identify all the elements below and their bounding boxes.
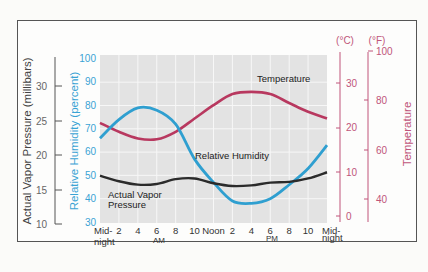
vapor-tick: 30 [36,81,48,92]
fahrenheit-tick: 40 [376,194,388,205]
x-sub-pm: PM [266,234,278,243]
humidity-tick: 50 [85,170,97,181]
fahrenheit-unit: (°F) [369,35,386,46]
humidity-tick: 60 [85,146,97,157]
vapor-tick: 15 [36,185,48,196]
humidity-tick: 100 [79,53,96,64]
celsius-tick: 10 [346,167,358,178]
celsius-axis: 30 20 10 0 (°C) [336,35,358,222]
humidity-tick: 40 [85,193,97,204]
annotation-vapor-line2: Pressure [108,199,146,210]
x-tick-label: Noon [202,225,225,236]
celsius-tick: 30 [346,78,358,89]
x-tick-label: 4 [135,225,140,236]
celsius-tick: 20 [346,122,358,133]
fahrenheit-axis: 100 80 60 40 (°F) Temperature [364,35,413,222]
vapor-axis: 30 25 20 15 10 Actual Vapor Pressure (mi… [21,57,62,230]
x-tick-label: 10 [303,225,314,236]
x-tick-label: 10 [189,225,200,236]
vapor-axis-title: Actual Vapor Pressure (millibars) [21,57,33,224]
celsius-tick: 0 [346,211,352,222]
annotation-humidity: Relative Humidity [195,150,269,161]
humidity-tick: 70 [85,123,97,134]
x-sub-night-left: night [94,236,115,247]
x-tick-label: 8 [287,225,292,236]
chart-svg: 30 25 20 15 10 Actual Vapor Pressure (mi… [0,0,428,272]
x-axis: Mid-246810Noon246810Mid- [94,225,340,236]
annotation-temperature: Temperature [257,73,310,84]
x-tick-label: 8 [173,225,178,236]
fahrenheit-tick: 80 [376,95,388,106]
humidity-tick: 90 [85,76,97,87]
x-tick-label: 2 [116,225,121,236]
vapor-tick: 10 [36,219,48,230]
x-tick-label: Mid- [94,225,112,236]
x-tick-label: 6 [154,225,159,236]
fahrenheit-tick: 100 [376,46,393,57]
fahrenheit-tick: 60 [376,145,388,156]
x-sub-am: AM [153,236,165,245]
vapor-tick: 20 [36,150,48,161]
humidity-axis-title: Relative Humidity (percent) [68,71,80,210]
celsius-unit: (°C) [336,35,354,46]
x-tick-label: 2 [230,225,235,236]
humidity-axis: 100 90 80 70 60 50 40 30 Relative Humidi… [68,53,96,228]
vapor-tick: 25 [36,116,48,127]
humidity-tick: 80 [85,100,97,111]
x-tick-label: 4 [249,225,254,236]
temperature-axis-title: Temperature [401,102,413,167]
x-sub-night-right: night [322,232,343,243]
